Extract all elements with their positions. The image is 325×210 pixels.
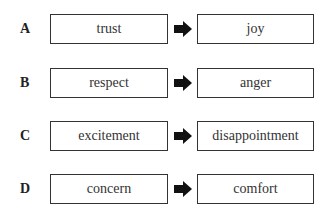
from-emotion-box: respect [50,68,168,98]
option-letter: D [20,174,30,204]
from-emotion-box: excitement [50,121,168,151]
right-arrow-icon [174,21,192,37]
option-a[interactable]: A trust joy [0,14,325,44]
option-letter: C [20,121,30,151]
to-emotion-box: joy [197,14,314,44]
option-letter: B [20,68,29,98]
option-d[interactable]: D concern comfort [0,174,325,204]
right-arrow-icon [174,181,192,197]
option-letter: A [20,14,30,44]
right-arrow-icon [174,75,192,91]
from-emotion-box: trust [50,14,168,44]
option-c[interactable]: C excitement disappointment [0,121,325,151]
to-emotion-box: disappointment [197,121,314,151]
option-b[interactable]: B respect anger [0,68,325,98]
from-emotion-box: concern [50,174,168,204]
to-emotion-box: comfort [197,174,314,204]
to-emotion-box: anger [197,68,314,98]
right-arrow-icon [174,128,192,144]
